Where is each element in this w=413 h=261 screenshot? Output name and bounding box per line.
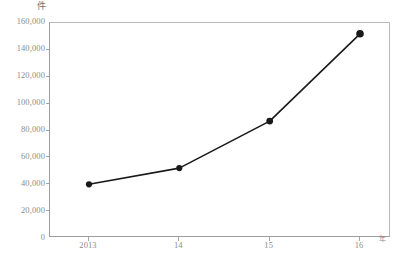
x-tick-label: 15 [264,240,273,250]
x-tick-label: 2013 [79,240,96,250]
line-chart-figure: 件 160,000 140,000 120,000 100,000 80,000… [0,0,413,261]
x-axis-unit-label: 年 [379,235,386,244]
x-tick-label: 14 [174,240,183,250]
x-tick-label: 16 [355,240,364,250]
x-axis-tick-labels: 2013 14 15 16 [0,0,413,261]
